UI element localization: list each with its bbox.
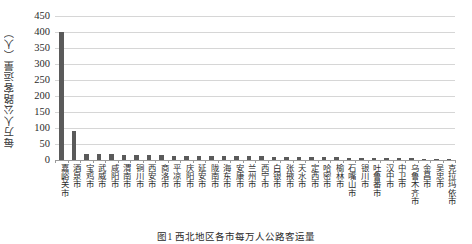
x-tick-mark (168, 160, 169, 163)
x-tick-mark (443, 160, 444, 163)
x-tick-label: 哈密市 (318, 164, 329, 189)
x-tick-mark (430, 160, 431, 163)
bar (59, 32, 64, 160)
y-axis-tick-labels: 450400350300250200150100500 (18, 16, 52, 160)
x-tick-label: 张掖市 (281, 164, 292, 189)
x-tick-mark (305, 160, 306, 163)
y-tick-label: 250 (34, 75, 50, 86)
x-tick-mark (55, 160, 56, 163)
x-tick-label: 定西市 (306, 164, 317, 189)
bar-series (55, 16, 455, 160)
x-tick-label: 嘉峪关市 (56, 164, 67, 197)
x-tick-mark (218, 160, 219, 163)
x-tick-label: 宝鸡市 (81, 164, 92, 189)
x-tick-label: 吴忠市 (431, 164, 442, 189)
x-tick-mark (143, 160, 144, 163)
y-tick-label: 50 (40, 139, 51, 150)
x-tick-mark (118, 160, 119, 163)
x-tick-label: 乌鲁木齐市 (406, 164, 417, 205)
x-tick-label: 金昌市 (418, 164, 429, 189)
x-tick-mark (230, 160, 231, 163)
x-tick-label: 兰州市 (243, 164, 254, 189)
x-tick-mark (418, 160, 419, 163)
x-tick-mark (380, 160, 381, 163)
x-tick-mark (205, 160, 206, 163)
x-axis-category-labels: 嘉峪关市酒泉市宝鸡市武威市咸阳市渭南市铜川市西安市商洛市平凉市庆阳市延安市陇南市… (55, 164, 455, 226)
plot-area (55, 16, 455, 160)
x-tick-mark (318, 160, 319, 163)
x-tick-mark (68, 160, 69, 163)
x-tick-label: 庆阳市 (181, 164, 192, 189)
x-tick-mark (293, 160, 294, 163)
x-tick-label: 中卫市 (393, 164, 404, 189)
y-tick-label: 300 (34, 59, 50, 70)
x-tick-mark (343, 160, 344, 163)
x-tick-label: 石嘴山市 (343, 164, 354, 197)
bar (72, 131, 77, 160)
x-tick-label: 白银市 (268, 164, 279, 189)
x-tick-label: 渭南市 (118, 164, 129, 189)
x-tick-mark (130, 160, 131, 163)
x-tick-mark (243, 160, 244, 163)
x-tick-label: 西安市 (143, 164, 154, 189)
x-tick-mark (155, 160, 156, 163)
x-tick-label: 银川市 (356, 164, 367, 189)
x-tick-label: 吐鲁番市 (368, 164, 379, 197)
x-tick-label: 武威市 (93, 164, 104, 189)
x-tick-label: 天水市 (293, 164, 304, 189)
x-tick-mark (355, 160, 356, 163)
x-tick-label: 榆林市 (331, 164, 342, 189)
x-tick-mark (193, 160, 194, 163)
y-tick-label: 450 (34, 11, 50, 22)
x-tick-label: 延安市 (193, 164, 204, 189)
x-tick-label: 酒泉市 (68, 164, 79, 189)
x-tick-mark (405, 160, 406, 163)
y-tick-label: 0 (45, 155, 50, 166)
x-tick-label: 咸阳市 (106, 164, 117, 189)
x-tick-mark (368, 160, 369, 163)
y-axis-title: 每万人公路客运量（人） (2, 12, 18, 164)
x-tick-label: 汉中市 (381, 164, 392, 189)
x-tick-label: 商洛市 (156, 164, 167, 189)
x-tick-label: 陇南市 (206, 164, 217, 189)
x-tick-mark (268, 160, 269, 163)
figure-caption: 图1 西北地区各市每万人公路客运量 (0, 231, 472, 243)
y-tick-label: 150 (34, 107, 50, 118)
x-tick-mark (393, 160, 394, 163)
y-tick-label: 400 (34, 27, 50, 38)
x-tick-label: 西宁市 (256, 164, 267, 189)
y-tick-label: 100 (34, 123, 50, 134)
x-tick-mark (180, 160, 181, 163)
x-tick-mark (280, 160, 281, 163)
y-tick-label: 200 (34, 91, 50, 102)
x-tick-mark (255, 160, 256, 163)
x-tick-label: 海东市 (218, 164, 229, 189)
x-tick-label: 平凉市 (168, 164, 179, 189)
x-tick-label: 铜川市 (131, 164, 142, 189)
x-tick-mark (455, 160, 456, 163)
x-tick-mark (105, 160, 106, 163)
x-tick-label: 安康市 (231, 164, 242, 189)
y-tick-label: 350 (34, 43, 50, 54)
x-tick-mark (93, 160, 94, 163)
chart-figure: 每万人公路客运量（人） 450400350300250200150100500 … (0, 0, 472, 244)
x-tick-mark (330, 160, 331, 163)
x-tick-label: 克拉玛依市 (443, 164, 454, 205)
x-tick-mark (80, 160, 81, 163)
